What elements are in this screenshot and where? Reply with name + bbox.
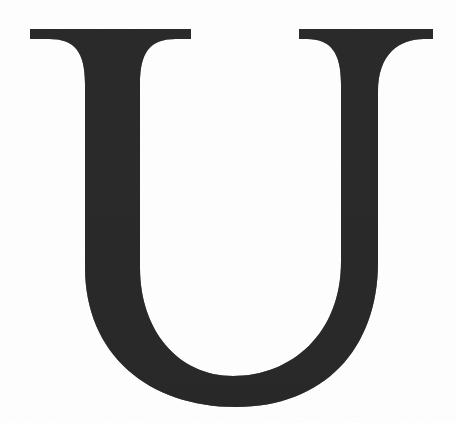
glyph-grain-group [30,29,433,407]
glyph-layer: Large dark serif capital letter U center… [0,0,456,423]
image-canvas: Large dark serif capital letter U center… [0,0,456,423]
letter-u-grain-path [30,29,433,407]
letter-u-glyph: Large dark serif capital letter U center… [0,0,456,423]
